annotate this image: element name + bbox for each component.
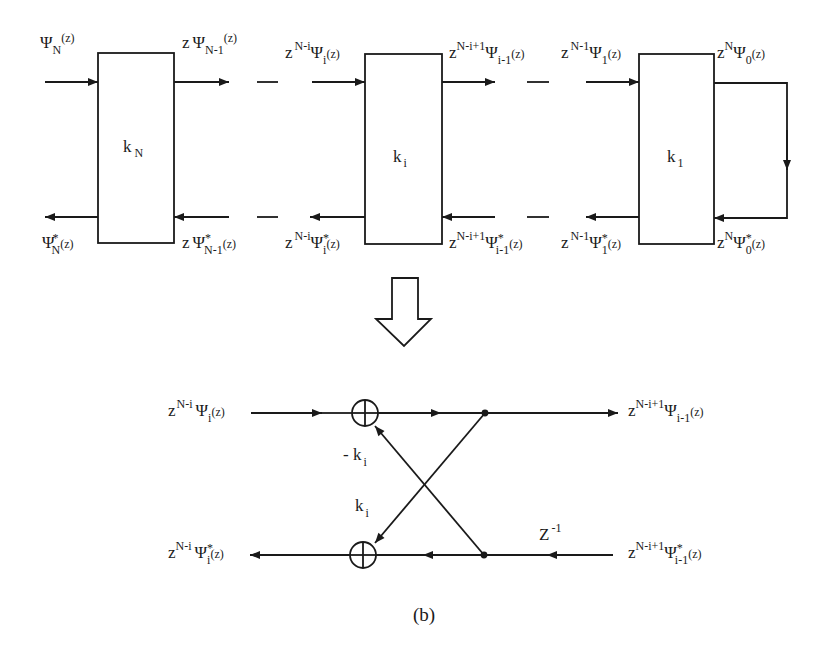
detail-label-in-bottom: zN-i+1Ψ*i-1(z) bbox=[628, 539, 702, 567]
detail-label-out-top: zN-i+1Ψi-1(z) bbox=[628, 397, 704, 425]
label-in-bottom-1: zNΨ*0(z) bbox=[717, 229, 765, 257]
label-out-bottom-i: zN-iΨ*i(z) bbox=[285, 229, 340, 257]
label-in-top-N: ΨN(z) bbox=[40, 31, 75, 57]
figure-caption: (b) bbox=[413, 604, 435, 626]
stage-block-ki bbox=[365, 54, 442, 244]
delay-label: Z-1 bbox=[539, 521, 561, 544]
label-out-top-1: zNΨ0(z) bbox=[717, 39, 765, 67]
expand-down-arrow-icon bbox=[376, 278, 431, 346]
diag-neg-k-branch bbox=[375, 426, 484, 555]
block-label-kN: kN bbox=[123, 137, 144, 160]
termination-loop bbox=[714, 83, 787, 218]
gain-label-neg-k: - ki bbox=[343, 445, 367, 469]
detail-label-in-top: zN-iΨi(z) bbox=[168, 397, 225, 425]
label-out-top-N: zΨN-1(z) bbox=[182, 31, 237, 57]
stage-block-k1 bbox=[639, 54, 714, 244]
block-label-ki: ki bbox=[393, 147, 408, 170]
gain-label-k: ki bbox=[355, 496, 370, 520]
label-in-top-i: zN-iΨi(z) bbox=[285, 39, 340, 67]
lattice-filter-diagram: kN ΨN(z) zΨN-1(z) Ψ*N(z) zΨ*N-1(z) ki zN… bbox=[0, 0, 822, 652]
label-in-bottom-i: zN-i+1Ψ*i-1(z) bbox=[449, 229, 523, 257]
label-out-top-i: zN-i+1Ψi-1(z) bbox=[449, 39, 525, 67]
label-out-bottom-1: zN-1Ψ*1(z) bbox=[561, 229, 621, 257]
label-in-top-1: zN-1Ψ1(z) bbox=[561, 39, 621, 67]
diag-k-branch bbox=[375, 413, 485, 543]
detail-label-out-bottom: zN-iΨ*i(z) bbox=[168, 539, 224, 567]
block-label-k1: k1 bbox=[667, 147, 684, 170]
label-in-bottom-N: zΨ*N-1(z) bbox=[182, 231, 236, 257]
label-out-bottom-N: Ψ*N(z) bbox=[42, 231, 74, 257]
